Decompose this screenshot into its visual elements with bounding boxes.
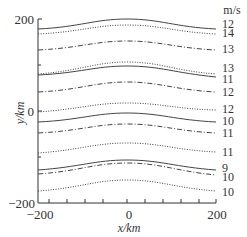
ytick-200: 200 xyxy=(15,12,35,27)
line-13-dotted xyxy=(38,62,216,74)
line-10-solid xyxy=(38,113,216,122)
label-line-9: 11 xyxy=(222,126,234,140)
label-line-13: 10 xyxy=(222,185,234,199)
label-line-5: 11 xyxy=(222,72,234,86)
xtick-neg200: −200 xyxy=(27,207,54,222)
xtick-0: 0 xyxy=(126,207,133,222)
unit-label: m/s xyxy=(223,3,241,17)
line-12-solid xyxy=(38,19,216,29)
right-labels: 12 14 13 13 11 12 12 10 11 11 9 10 10 xyxy=(222,17,234,199)
label-line-6: 12 xyxy=(222,85,234,99)
ytick-0: 0 xyxy=(28,104,35,119)
y-axis-label: y/km xyxy=(13,101,27,125)
line-10-dotted xyxy=(38,180,216,191)
xtick-200: 200 xyxy=(207,207,227,222)
line-13-dashdot xyxy=(38,41,216,50)
axes xyxy=(38,19,216,203)
line-10-dashdot xyxy=(38,163,216,175)
label-line-12: 10 xyxy=(222,170,234,184)
line-12-dashdot xyxy=(38,82,216,92)
streamline-chart: 200 0 −200 −200 0 200 x/km y/km m/s 12 1… xyxy=(0,0,247,237)
streamlines xyxy=(38,19,216,191)
line-9-solid xyxy=(38,160,216,170)
label-line-3: 13 xyxy=(222,42,234,56)
label-line-2: 14 xyxy=(222,26,234,40)
line-11-solid xyxy=(38,66,216,77)
line-12-dotted xyxy=(38,103,216,112)
line-11-dotted xyxy=(38,143,216,153)
x-axis-label: x/km xyxy=(117,221,141,235)
label-line-10: 11 xyxy=(222,145,234,159)
line-11-dashdot xyxy=(38,124,216,133)
